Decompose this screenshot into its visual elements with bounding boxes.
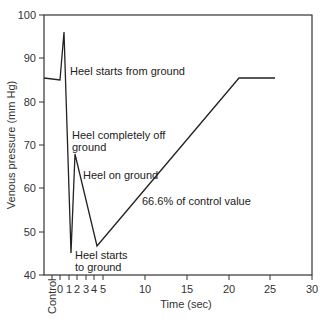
y-tick-label: 50 [24, 226, 36, 238]
y-tick-label: 60 [24, 182, 36, 194]
x-tick-label: 30 [306, 283, 318, 295]
annotation-to-ground: to ground [75, 261, 121, 273]
x-tick-label: 25 [264, 283, 276, 295]
x-tick-label: 4 [91, 283, 97, 295]
y-tick-label: 70 [24, 139, 36, 151]
y-axis-title: Venous pressure (mm Hg) [5, 81, 17, 209]
x-tick-label: 3 [83, 283, 89, 295]
y-tick-label: 100 [18, 9, 36, 21]
x-tick-label: 0 [57, 283, 63, 295]
y-tick-label: 40 [24, 269, 36, 281]
y-tick-label: 90 [24, 52, 36, 64]
annotation-heel-starts: Heel starts [75, 249, 128, 261]
annotation-control-value: 66.6% of control value [142, 195, 251, 207]
x-tick-label: 20 [223, 283, 235, 295]
y-tick-label: 80 [24, 96, 36, 108]
x-tick-label: 5 [100, 283, 106, 295]
y-axis: 40 50 60 70 80 90 100 Venous pressure (m… [5, 9, 44, 281]
x-tick-label: 10 [139, 283, 151, 295]
x-tick-label: 2 [74, 283, 80, 295]
x-axis: Control 0 1 2 3 4 5 10 15 20 25 30 Time … [46, 275, 318, 314]
x-tick-label: 1 [66, 283, 72, 295]
venous-pressure-chart: 40 50 60 70 80 90 100 Venous pressure (m… [0, 0, 324, 322]
annotation-heel-completely-off: Heel completely off [72, 129, 166, 141]
annotation-heel-off-ground: ground [72, 141, 106, 153]
x-tick-label: 15 [181, 283, 193, 295]
annotation-heel-on-ground: Heel on ground [83, 169, 158, 181]
x-axis-title: Time (sec) [160, 298, 212, 310]
annotation-heel-starts-from-ground: Heel starts from ground [70, 65, 185, 77]
